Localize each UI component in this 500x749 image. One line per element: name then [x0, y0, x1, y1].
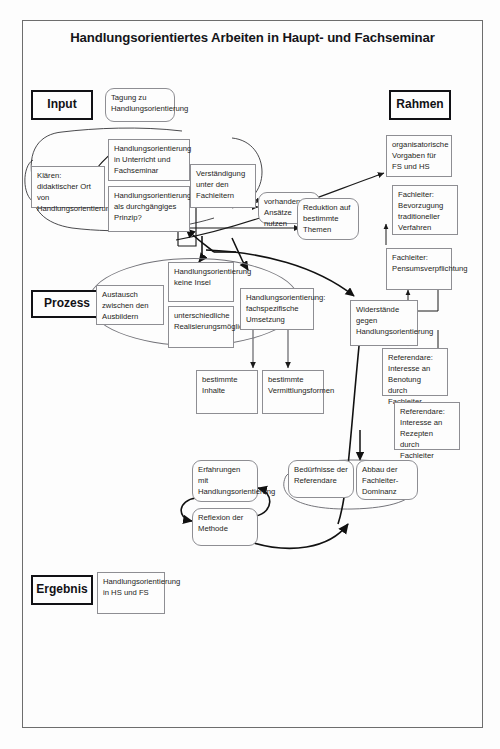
- node-keine-insel: Handlungsorientierung keine Insel: [168, 262, 234, 302]
- node-klaeren: Klären: didaktischer Ort von Handlungsor…: [31, 166, 105, 208]
- stage-ergebnis-label: Ergebnis: [36, 581, 87, 598]
- node-bestimmte-vermittlungsformen: bestimmte Vermittlungsformen: [262, 370, 324, 414]
- node-ergebnis-ho: Handlungsorientierung in HS und FS: [97, 572, 165, 614]
- node-fachleiter-bevorzugung: Fachleiter: Bevorzugung traditioneller V…: [392, 185, 458, 235]
- node-beduerfnisse: Bedürfnisse der Referendare: [288, 460, 354, 498]
- node-erfahrungen: Erfahrungen mit Handlungsorientierung: [192, 460, 258, 502]
- node-bestimmte-inhalte: bestimmte Inhalte: [196, 370, 258, 414]
- node-organisatorische-vorgaben: organisatorische Vorgaben für FS und HS: [386, 135, 452, 177]
- diagram-page: Handlungsorientiertes Arbeiten in Haupt-…: [0, 0, 500, 749]
- stage-rahmen-label: Rahmen: [396, 96, 443, 113]
- stage-ergebnis: Ergebnis: [31, 575, 93, 605]
- node-referendare-rezepte: Referendare: Interesse an Rezepten durch…: [394, 402, 460, 450]
- node-austausch: Austausch zwischen den Ausbildern: [96, 285, 164, 325]
- stage-rahmen: Rahmen: [389, 90, 451, 120]
- node-tagung: Tagung zu Handlungsorientierung: [105, 88, 175, 122]
- node-verstaendigung: Verständigung unter den Fachleitern: [190, 164, 256, 208]
- node-reduktion: Reduktion auf bestimmte Themen: [297, 198, 359, 240]
- page-title: Handlungsorientiertes Arbeiten in Haupt-…: [22, 30, 483, 45]
- stage-prozess: Prozess: [31, 290, 103, 318]
- stage-input-label: Input: [47, 96, 76, 113]
- node-ho-unterricht: Handlungsorientierung in Unterricht und …: [108, 139, 190, 181]
- node-unterschiedliche: unterschiedliche Realisierungsmöglichkei…: [168, 306, 234, 348]
- node-fachleiter-pensum: Fachleiter: Pensumsverpflichtung: [386, 248, 452, 290]
- node-fachspezifisch: Handlungsorientierung: fachspezifische U…: [240, 288, 314, 330]
- node-reflexion: Reflexion der Methode: [192, 508, 258, 546]
- node-referendare-benotung: Referendare: Interesse an Benotung durch…: [382, 348, 448, 396]
- stage-input: Input: [31, 90, 93, 120]
- node-ho-prinzip: Handlungsorientierung als durchgängiges …: [108, 186, 190, 232]
- node-abbau: Abbau der Fachleiter-Dominanz: [356, 460, 418, 500]
- stage-prozess-label: Prozess: [44, 295, 90, 312]
- node-widerstaende: Widerstände gegen Handlungsorientierung: [350, 300, 418, 346]
